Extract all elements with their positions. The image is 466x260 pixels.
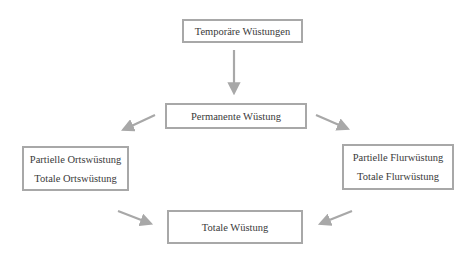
node-settlement: Partielle Ortswüstung Totale Ortswüstung: [22, 146, 129, 191]
arrow-field-to-total: [322, 211, 352, 223]
arrow-permanent-to-settlement: [125, 115, 155, 129]
node-total: Totale Wüstung: [167, 210, 303, 244]
node-field: Partielle Flurwüstung Totale Flurwüstung: [342, 144, 454, 190]
node-field-line-1: Partielle Flurwüstung: [353, 152, 444, 163]
node-field-line-2: Totale Flurwüstung: [357, 171, 439, 182]
node-temporary: Temporäre Wüstungen: [182, 19, 303, 43]
node-permanent-label: Permanente Wüstung: [191, 111, 281, 122]
node-temporary-label: Temporäre Wüstungen: [195, 26, 291, 37]
node-settlement-line-1: Partielle Ortswüstung: [30, 154, 121, 165]
arrow-permanent-to-field: [316, 115, 346, 128]
node-total-label: Totale Wüstung: [202, 222, 268, 233]
arrow-settlement-to-total: [118, 211, 149, 223]
node-settlement-line-2: Totale Ortswüstung: [34, 173, 116, 184]
node-permanent: Permanente Wüstung: [165, 103, 307, 129]
